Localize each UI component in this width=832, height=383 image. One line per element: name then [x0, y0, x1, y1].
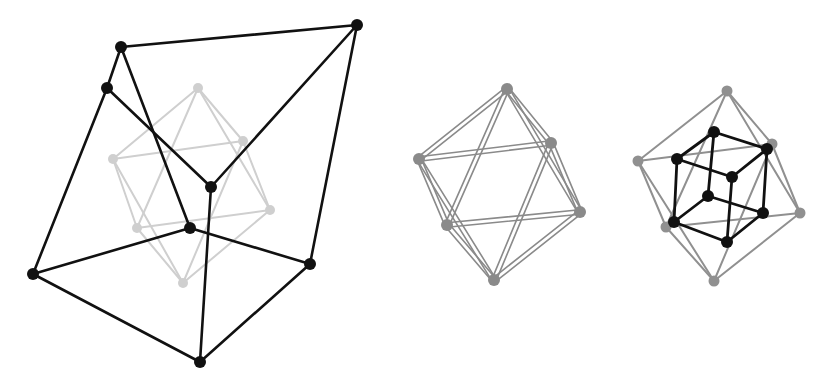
edge — [445, 88, 505, 224]
edge — [33, 228, 190, 274]
edge — [200, 187, 211, 362]
edge — [708, 196, 763, 213]
edge — [33, 274, 200, 362]
vertex-node — [265, 205, 275, 215]
vertex-node — [761, 143, 773, 155]
edge — [419, 145, 551, 161]
vertex-node — [27, 268, 39, 280]
vertex-node — [108, 154, 118, 164]
vertex-node — [726, 171, 738, 183]
edge — [243, 141, 270, 210]
edge — [727, 177, 732, 242]
edge — [638, 161, 666, 227]
vertex-node — [795, 208, 806, 219]
vertex-node — [668, 216, 680, 228]
vertex-node — [708, 126, 720, 138]
panel-middle-doubled-octahedron — [413, 83, 586, 286]
edge — [772, 144, 800, 213]
edge — [421, 158, 449, 224]
edge — [677, 159, 732, 177]
edge — [310, 25, 357, 264]
edge — [211, 25, 357, 187]
vertex-node — [205, 181, 217, 193]
distorted-cube-layer — [27, 19, 363, 368]
vertex-node — [757, 207, 769, 219]
edge — [495, 214, 581, 282]
edge — [677, 132, 714, 159]
edge — [493, 210, 579, 278]
vertex-node — [574, 206, 586, 218]
vertex-node — [194, 356, 206, 368]
edge — [107, 88, 211, 187]
vertex-node — [501, 83, 513, 95]
edge — [505, 90, 578, 213]
edge — [418, 87, 506, 157]
edge — [121, 25, 357, 47]
edge — [137, 210, 270, 228]
edge — [492, 142, 549, 279]
vertex-node — [671, 153, 683, 165]
vertex-node — [413, 153, 425, 165]
edge — [113, 159, 183, 283]
vertex-node — [238, 136, 248, 146]
panel-right-octahedron-with-cube — [633, 86, 806, 287]
edge — [727, 91, 772, 144]
vertex-node — [351, 19, 363, 31]
octahedron-doubled-layer — [413, 83, 586, 286]
edge — [420, 91, 508, 161]
edge — [200, 264, 310, 362]
polyhedra-diagram — [0, 0, 832, 383]
edge — [449, 224, 496, 279]
edge — [674, 159, 677, 222]
edge — [417, 160, 445, 226]
edge — [727, 213, 763, 242]
edge — [198, 88, 243, 141]
edge — [732, 149, 767, 177]
edge — [449, 90, 509, 226]
edge — [121, 47, 190, 228]
edge — [708, 132, 714, 196]
vertex-node — [722, 86, 733, 97]
edge — [666, 213, 800, 227]
edge — [496, 144, 553, 281]
panel-left-distorted-cube-with-octahedron — [27, 19, 363, 368]
vertex-node — [115, 41, 127, 53]
vertex-node — [304, 258, 316, 270]
edge — [763, 149, 767, 213]
vertex-node — [709, 276, 720, 287]
edge — [107, 47, 121, 88]
vertex-node — [545, 137, 557, 149]
vertex-node — [702, 190, 714, 202]
vertex-node — [721, 236, 733, 248]
vertex-node — [184, 222, 196, 234]
edge — [549, 144, 578, 213]
vertex-node — [101, 82, 113, 94]
octahedron-outer-layer — [633, 86, 806, 287]
vertex-node — [178, 278, 188, 288]
edge — [137, 88, 198, 228]
edge — [638, 144, 772, 161]
edge — [714, 132, 767, 149]
vertex-node — [132, 223, 142, 233]
vertex-node — [441, 219, 453, 231]
edge — [417, 160, 492, 281]
edge — [33, 88, 107, 274]
vertex-node — [633, 156, 644, 167]
vertex-node — [488, 274, 500, 286]
vertex-node — [193, 83, 203, 93]
